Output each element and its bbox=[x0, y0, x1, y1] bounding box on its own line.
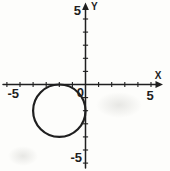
x-axis-max-tick-label: 5 bbox=[146, 88, 153, 103]
graph-canvas: 5 Y X 5 -5 -5 0 bbox=[0, 0, 170, 171]
origin-label: 0 bbox=[77, 85, 84, 100]
y-axis-title: Y bbox=[91, 1, 98, 12]
y-axis-min-tick-label: -5 bbox=[70, 150, 82, 165]
coordinate-plane-figure: 5 Y X 5 -5 -5 0 bbox=[0, 0, 170, 171]
x-axis-arrow-icon bbox=[156, 81, 164, 88]
axis-labels: 5 Y X 5 -5 -5 0 bbox=[7, 1, 162, 165]
y-axis-max-tick-label: 5 bbox=[74, 3, 81, 18]
y-axis-arrow-icon bbox=[82, 3, 89, 11]
x-axis-min-tick-label: -5 bbox=[7, 86, 19, 101]
x-axis-title: X bbox=[155, 70, 162, 81]
